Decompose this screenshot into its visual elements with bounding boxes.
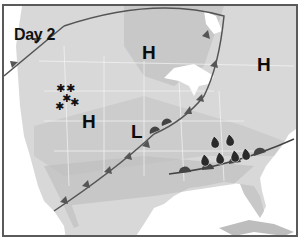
svg-text:✱: ✱ <box>55 100 64 113</box>
map-title: Day 2 <box>14 26 55 44</box>
high-pressure-marker: H <box>82 112 96 131</box>
svg-text:✱: ✱ <box>70 96 79 109</box>
high-pressure-marker: H <box>142 43 156 62</box>
cuba <box>219 220 294 236</box>
weather-map: ✱ ✱ ✱ ✱ ✱ Day 2 H H H L <box>2 4 298 237</box>
low-pressure-marker: L <box>131 122 143 141</box>
high-pressure-marker: H <box>257 55 271 74</box>
